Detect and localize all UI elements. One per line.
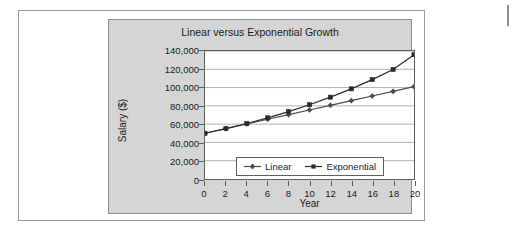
legend-marker-diamond-icon [244,162,261,171]
data-point [328,95,332,99]
data-point [411,84,414,89]
data-point [412,53,414,57]
figure-card: Linear versus Exponential Growth Salary … [18,10,425,221]
data-point [370,78,374,82]
data-point [245,121,249,125]
chart-title: Linear versus Exponential Growth [109,26,411,38]
legend-entry-exponential[interactable]: Exponential [305,161,376,172]
x-tick-mark [310,181,311,186]
x-tick-mark [204,181,205,186]
x-tick-mark [246,181,247,186]
x-tick-mark [352,181,353,186]
x-tick-mark [394,181,395,186]
data-point [307,107,312,112]
x-tick-mark [373,181,374,186]
legend-entry-linear[interactable]: Linear [244,161,291,172]
legend-label: Linear [265,161,291,172]
data-point [307,103,311,107]
data-point [391,89,396,94]
chart-legend: LinearExponential [236,157,384,176]
x-tick-mark [225,181,226,186]
data-point [349,87,353,91]
data-point [391,67,395,71]
data-point [266,116,270,120]
data-point [287,110,291,114]
chart-panel: Linear versus Exponential Growth Salary … [108,19,412,214]
x-axis-label: Year [204,198,415,209]
x-tick-mark [267,181,268,186]
data-point [370,93,375,98]
page-edge-rule [507,5,509,26]
legend-label: Exponential [326,161,376,172]
x-tick-mark [415,181,416,186]
data-point [205,131,207,135]
x-tick-mark [331,181,332,186]
data-point [328,103,333,108]
legend-marker-square-icon [305,162,322,171]
x-tick-mark [288,181,289,186]
data-point [224,127,228,131]
data-point [349,98,354,103]
